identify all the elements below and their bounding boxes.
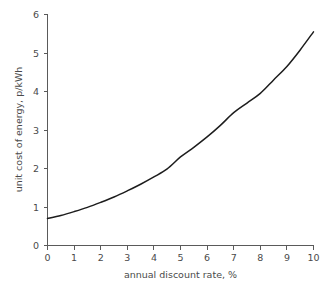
x-tick-label-3: 3 (124, 252, 130, 263)
chart-figure: 0 1 2 3 4 5 6 0 1 2 3 4 (0, 0, 334, 291)
x-axis-tick-labels: 0 1 2 3 4 5 6 7 8 9 10 (44, 252, 319, 263)
y-tick-label-4: 4 (33, 86, 39, 97)
x-tick-label-10: 10 (307, 252, 319, 263)
x-axis-ticks (48, 246, 314, 250)
x-tick-label-7: 7 (231, 252, 237, 263)
line-chart-canvas: 0 1 2 3 4 5 6 0 1 2 3 4 (0, 0, 334, 291)
x-tick-label-8: 8 (257, 252, 263, 263)
y-axis-tick-labels: 0 1 2 3 4 5 6 (33, 9, 39, 251)
y-axis-title: unit cost of energy, p/kWh (13, 67, 24, 193)
y-tick-label-3: 3 (33, 125, 39, 136)
y-tick-label-0: 0 (33, 240, 39, 251)
x-tick-label-9: 9 (284, 252, 290, 263)
y-tick-label-2: 2 (33, 163, 39, 174)
x-axis-title: annual discount rate, % (124, 269, 237, 280)
y-tick-label-1: 1 (33, 202, 39, 213)
axis-spines (48, 14, 314, 246)
x-tick-label-1: 1 (71, 252, 77, 263)
x-tick-label-4: 4 (151, 252, 157, 263)
y-tick-label-5: 5 (33, 48, 39, 59)
y-axis-ticks (44, 15, 48, 246)
y-tick-label-6: 6 (33, 9, 39, 20)
x-tick-label-2: 2 (98, 252, 104, 263)
x-tick-label-0: 0 (44, 252, 50, 263)
x-tick-label-5: 5 (177, 252, 183, 263)
data-series-unit-cost-of-energy (48, 32, 314, 219)
x-tick-label-6: 6 (204, 252, 210, 263)
